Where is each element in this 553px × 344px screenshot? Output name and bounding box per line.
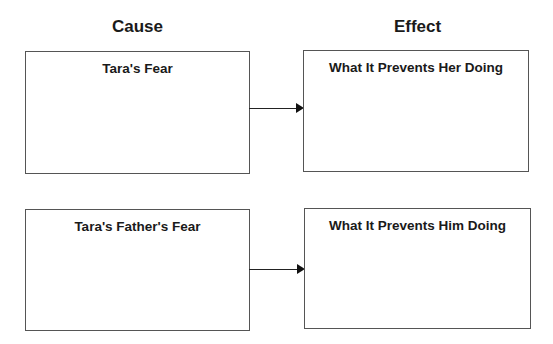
arrow-right-icon — [249, 103, 304, 113]
cause-heading: Cause — [100, 17, 175, 37]
cause-box-tara-father[interactable]: Tara's Father's Fear — [25, 209, 250, 331]
cause-box-title: Tara's Fear — [26, 61, 249, 76]
cause-box-title: Tara's Father's Fear — [26, 219, 249, 234]
effect-box-title: What It Prevents Her Doing — [304, 60, 528, 75]
effect-box-title: What It Prevents Him Doing — [305, 218, 530, 233]
effect-heading: Effect — [375, 17, 460, 37]
cause-box-tara[interactable]: Tara's Fear — [25, 51, 250, 174]
effect-box-him[interactable]: What It Prevents Him Doing — [304, 208, 531, 329]
effect-box-her[interactable]: What It Prevents Her Doing — [303, 50, 529, 172]
arrow-right-icon — [249, 264, 305, 274]
